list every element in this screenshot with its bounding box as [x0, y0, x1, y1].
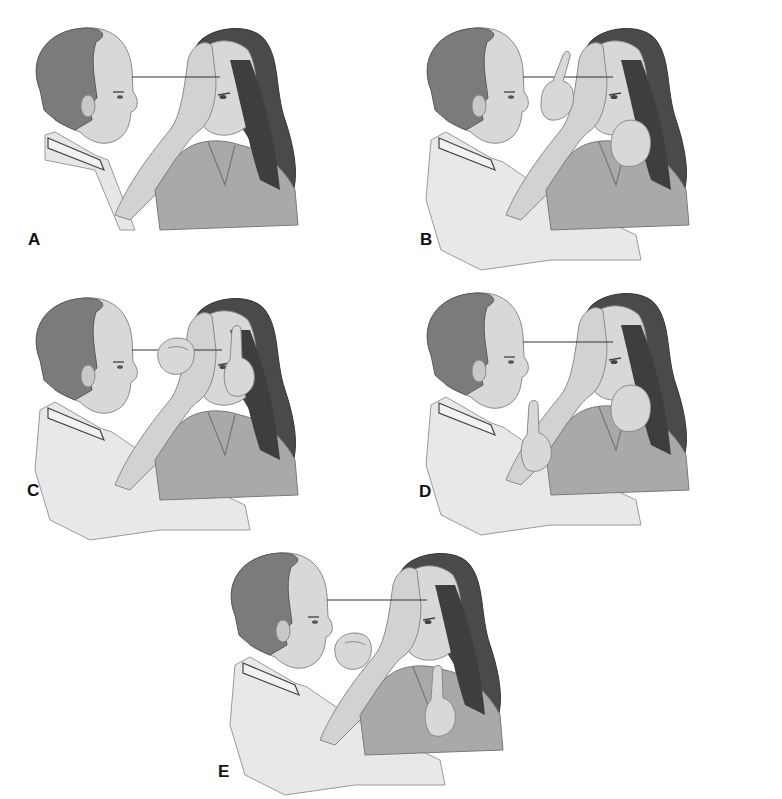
examiner-hand-near-patient-icon: [611, 120, 651, 166]
patient-figure: [506, 29, 689, 230]
patient-figure: [115, 299, 298, 500]
panel-label-b: B: [420, 230, 432, 250]
patient-figure: [115, 29, 298, 230]
panel-b: B: [391, 0, 782, 260]
examiner-hand-pointing-icon: [541, 51, 574, 120]
examiner-hand-near-patient-icon: [611, 385, 651, 431]
panel-e: E: [190, 530, 590, 799]
examiner-head: [427, 293, 528, 408]
examiner-fist-icon: [335, 633, 372, 669]
examiner-head: [427, 28, 528, 143]
panel-label-a: A: [28, 230, 40, 250]
panel-a: A: [0, 0, 391, 260]
examiner-head: [36, 28, 137, 143]
panel-c: C: [0, 270, 391, 510]
panel-d: D: [391, 270, 782, 520]
examiner-head: [36, 298, 137, 413]
panel-b-illustration: [391, 0, 782, 260]
panel-a-illustration: [0, 0, 391, 260]
panel-e-illustration: [190, 530, 590, 799]
panel-d-illustration: [391, 270, 782, 520]
examiner-fist-icon: [158, 338, 195, 374]
panel-label-e: E: [218, 762, 229, 782]
panel-label-d: D: [419, 482, 431, 502]
examiner-head: [231, 553, 332, 668]
panel-c-illustration: [0, 270, 391, 510]
panel-label-c: C: [27, 481, 39, 501]
